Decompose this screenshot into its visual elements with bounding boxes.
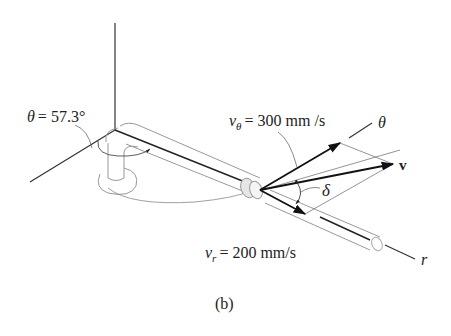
v-theta-leader [278, 132, 297, 167]
collar [238, 176, 265, 200]
velocity-vectors [260, 143, 393, 214]
vector-construction-lines [262, 143, 400, 214]
delta-leader [301, 188, 320, 193]
theta-axis-label: θ [378, 114, 386, 131]
x-axis [30, 130, 115, 182]
r-axis-line-2 [320, 217, 370, 240]
v-r-label: vr= 200 mm/s [205, 244, 296, 264]
v-theta-label: vθ= 300 mm /s [229, 112, 325, 132]
theta-axis-line [349, 123, 372, 138]
velocity-label: v [399, 157, 407, 173]
diagram-canvas: θ= 57.3° vθ= 300 mm /s θ v δ vr= 200 mm/… [0, 0, 451, 336]
figure-caption: (b) [215, 295, 234, 313]
leader-curve [108, 188, 250, 203]
theta-leader [75, 125, 92, 148]
r-axis-label: r [421, 251, 428, 268]
coordinate-axes [30, 23, 115, 182]
r-axis-ext [385, 245, 415, 259]
theta-angle-label: θ= 57.3° [27, 108, 85, 125]
delta-label: δ [322, 181, 331, 200]
